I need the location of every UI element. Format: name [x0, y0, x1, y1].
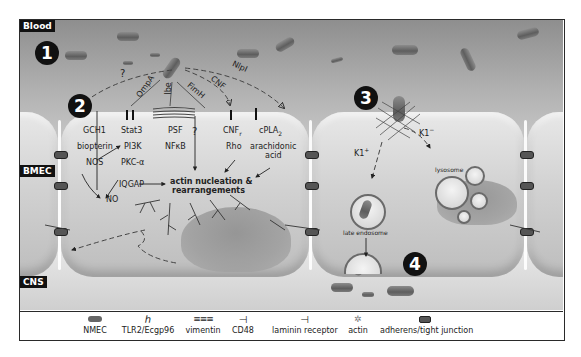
iqgap-label: IQGAP [119, 180, 144, 189]
actin-rearrangements-label: rearrangements [172, 186, 245, 195]
step-3-badge: 3 [354, 86, 378, 110]
vimentin-icon: ≡≡≡ [183, 312, 223, 326]
legend-item-nmec: NMEC [75, 312, 115, 341]
cd48-icon: ⊣ [228, 312, 258, 326]
nos-label: NOS [86, 158, 103, 167]
gch1-label: GCH1 [83, 126, 106, 135]
stat3-label: Stat3 [121, 126, 142, 135]
psf-label: PSF [168, 126, 183, 135]
legend-item-tlr2: ℎ TLR2/Ecgp96 [118, 312, 178, 341]
region-label-blood: Blood [20, 20, 55, 32]
cpla2-label: cPLA2 [259, 126, 282, 137]
legend-item-junction: adherens/tight junction [380, 312, 470, 341]
legend-item-cd48: ⊣ CD48 [228, 312, 258, 341]
actin-icon: ✲ [345, 312, 371, 326]
k1-negative-label: K1− [419, 126, 434, 138]
rho-label: Rho [226, 142, 242, 151]
tlr2-receptor-icon: ℎ [118, 312, 178, 326]
legend-item-laminin-receptor: ⊣ laminin receptor [272, 312, 337, 341]
pi3k-label: PI3K [124, 142, 142, 151]
diagram-frame: Blood BMEC CNS 1 2 3 4 ? OmpA Ibe FimH C… [19, 19, 565, 341]
legend-item-actin: ✲ actin [345, 312, 371, 341]
arachidonic-label: arachidonic [250, 142, 296, 151]
acid-label: acid [265, 151, 282, 160]
actin-nucleation-label: actin nucleation & [170, 177, 252, 186]
late-endosome-label: late endosome [343, 229, 388, 236]
unknown-pathway-label: ? [192, 126, 197, 137]
nmec-icon [88, 316, 102, 322]
biopterin-label: biopterin [77, 142, 113, 151]
pkc-alpha-label: PKC-α [121, 158, 144, 167]
ligand-ibe: Ibe [164, 82, 173, 94]
ligand-unknown: ? [120, 68, 125, 79]
lysosome-label: lysosome [435, 166, 463, 173]
k1-positive-label: K1+ [354, 146, 369, 158]
step-4-badge: 4 [403, 252, 427, 276]
region-label-cns: CNS [20, 276, 47, 288]
step-1-badge: 1 [35, 41, 59, 65]
legend: NMEC ℎ TLR2/Ecgp96 ≡≡≡ vimentin ⊣ CD48 ⊣… [20, 311, 563, 341]
no-label: NO [106, 195, 118, 204]
step-2-badge: 2 [68, 94, 92, 118]
junction-icon [419, 316, 431, 323]
region-label-bmec: BMEC [20, 165, 55, 177]
scene: Blood BMEC CNS 1 2 3 4 ? OmpA Ibe FimH C… [20, 20, 563, 310]
nfkb-label: NFκB [165, 142, 186, 151]
cnfr-label: CNFr [223, 126, 242, 137]
legend-item-vimentin: ≡≡≡ vimentin [183, 312, 223, 341]
laminin-receptor-icon: ⊣ [272, 312, 337, 326]
